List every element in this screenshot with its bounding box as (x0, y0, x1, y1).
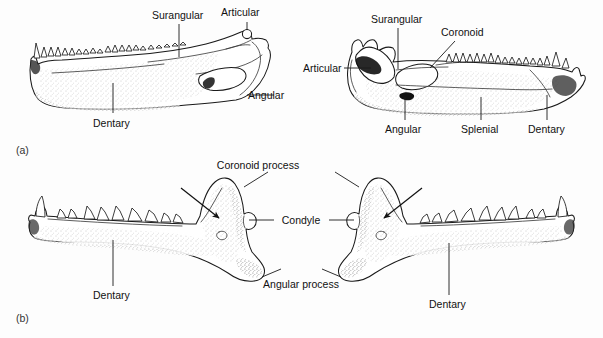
panel-label-a: (a) (16, 144, 29, 156)
label-coronoid-a-right: Coronoid (441, 26, 484, 38)
panel-label-b: (b) (16, 312, 29, 324)
incisor-b-right (558, 196, 567, 217)
label-splenial-a-right: Splenial (461, 123, 498, 135)
label-coronoid-process: Coronoid process (217, 159, 299, 171)
label-articular-a-left: Articular (221, 6, 260, 18)
label-angular-a-left: Angular (248, 89, 285, 101)
anatomical-figure: Surangular Articular Angular Dentary (0, 0, 603, 338)
articular-knob-a-left (242, 29, 251, 38)
specimen-b-right (338, 178, 574, 281)
specimen-a-right (348, 40, 586, 116)
label-condyle: Condyle (282, 214, 321, 226)
label-dentary-a-left: Dentary (93, 117, 131, 129)
label-surangular-a-right: Surangular (371, 13, 423, 25)
label-articular-a-right: Articular (303, 62, 342, 74)
incisor-b-left (36, 196, 45, 217)
specimen-b-left (28, 178, 264, 281)
leader-coronoid-process-left (244, 172, 268, 187)
label-angular-a-right: Angular (385, 123, 422, 135)
label-dentary-a-right: Dentary (528, 123, 566, 135)
jaw-shading-a-right (366, 71, 560, 112)
specimen-a-left (30, 29, 270, 111)
label-surangular-a-left: Surangular (152, 9, 204, 21)
label-dentary-b-left: Dentary (93, 289, 131, 301)
label-angular-process: Angular process (263, 278, 339, 290)
leader-coronoid-process-right (335, 172, 359, 187)
label-dentary-b-right: Dentary (429, 298, 467, 310)
